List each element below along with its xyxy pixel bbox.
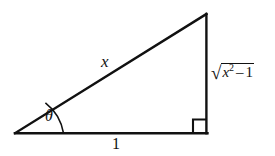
radicand-operator: – [234,64,246,80]
hypotenuse-label: x [101,53,109,70]
right-angle-marker-icon [193,120,206,134]
square-root-expression: √x2–1 [211,62,254,81]
base-label: 1 [112,136,120,152]
radical-sign-icon: √ [211,62,221,83]
radicand-constant: 1 [246,64,254,80]
triangle-hypotenuse-line [15,14,206,133]
opposite-side-label: √x2–1 [211,62,254,81]
triangle-figure: x 1 θ √x2–1 [0,0,275,156]
angle-label-theta: θ [45,108,53,124]
radicand: x2–1 [221,63,254,80]
